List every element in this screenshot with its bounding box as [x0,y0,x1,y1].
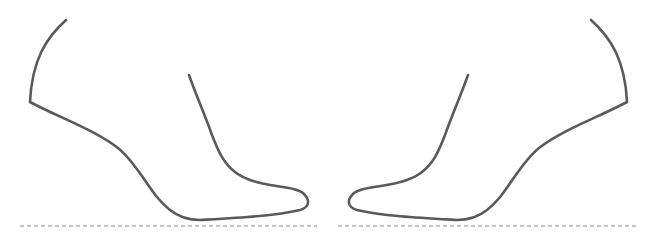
right-shoe-heel-and-sole [349,20,627,220]
shoe-outline-diagram [0,0,657,235]
left-shoe-outline [30,20,308,220]
right-shoe-outline [349,20,627,220]
left-shoe-heel-and-sole [30,20,308,220]
